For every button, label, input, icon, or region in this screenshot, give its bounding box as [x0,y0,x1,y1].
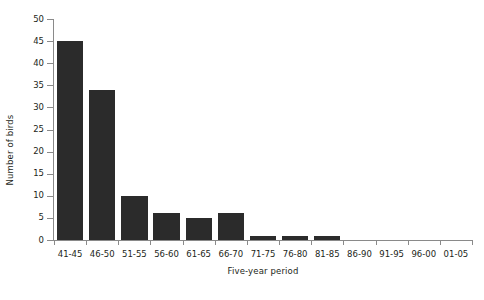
x-tick-label: 66-70 [215,249,247,259]
x-tick-mark [215,241,216,245]
bar [186,218,212,240]
x-tick-label: 61-65 [183,249,215,259]
x-tick-label: 01-05 [440,249,472,259]
y-tick-label: 30 [18,103,44,112]
x-tick-mark [118,241,119,245]
bar [57,41,83,240]
bar [314,236,340,240]
y-tick-mark [47,19,53,20]
x-tick-mark [311,241,312,245]
x-tick-mark [408,241,409,245]
y-tick-label-wrap: 35 [14,81,44,90]
x-tick-mark [183,241,184,245]
x-tick-label: 56-60 [150,249,182,259]
y-tick-mark [47,218,53,219]
y-tick-mark [47,152,53,153]
y-tick-mark [47,107,53,108]
x-tick-mark [343,241,344,245]
y-tick-mark [47,41,53,42]
y-tick-label-wrap: 50 [14,15,44,24]
y-tick-label: 45 [18,37,44,46]
y-tick-label: 0 [18,236,44,245]
y-tick-label: 10 [18,191,44,200]
y-tick-label-wrap: 40 [14,59,44,68]
bar [250,236,276,240]
x-tick-label: 86-90 [343,249,375,259]
x-tick-label: 81-85 [311,249,343,259]
y-tick-label: 15 [18,169,44,178]
y-tick-mark [47,174,53,175]
y-tick-label-wrap: 5 [14,213,44,222]
y-tick-label-wrap: 0 [14,236,44,245]
x-tick-mark [376,241,377,245]
y-tick-label: 40 [18,59,44,68]
x-tick-mark [440,241,441,245]
bar [121,196,147,240]
x-tick-mark [279,241,280,245]
x-axis-line [53,240,473,241]
x-tick-label: 91-95 [376,249,408,259]
y-tick-label-wrap: 20 [14,147,44,156]
bar-chart-figure: Number of birds 05101520253035404550 41-… [0,0,484,300]
x-tick-mark [86,241,87,245]
y-tick-mark [47,130,53,131]
y-tick-label-wrap: 15 [14,169,44,178]
y-tick-label: 5 [18,213,44,222]
y-tick-label-wrap: 10 [14,191,44,200]
x-tick-label: 46-50 [86,249,118,259]
x-tick-mark [54,241,55,245]
y-tick-mark [47,196,53,197]
x-tick-label: 76-80 [279,249,311,259]
x-axis-title: Five-year period [54,266,472,276]
y-tick-label-wrap: 25 [14,125,44,134]
x-tick-label: 96-00 [408,249,440,259]
bar [218,213,244,240]
bar [89,90,115,240]
y-tick-label-wrap: 30 [14,103,44,112]
y-tick-label-wrap: 45 [14,37,44,46]
x-tick-mark [247,241,248,245]
x-tick-label: 41-45 [54,249,86,259]
x-tick-mark [472,241,473,245]
bar [282,236,308,240]
bar-series [54,19,472,240]
y-tick-mark [47,240,53,241]
y-tick-label: 25 [18,125,44,134]
x-tick-label: 51-55 [118,249,150,259]
bar [153,213,179,240]
y-tick-label: 50 [18,15,44,24]
y-tick-label: 35 [18,81,44,90]
x-tick-mark [150,241,151,245]
x-tick-label: 71-75 [247,249,279,259]
y-tick-label: 20 [18,147,44,156]
y-tick-mark [47,85,53,86]
y-tick-mark [47,63,53,64]
